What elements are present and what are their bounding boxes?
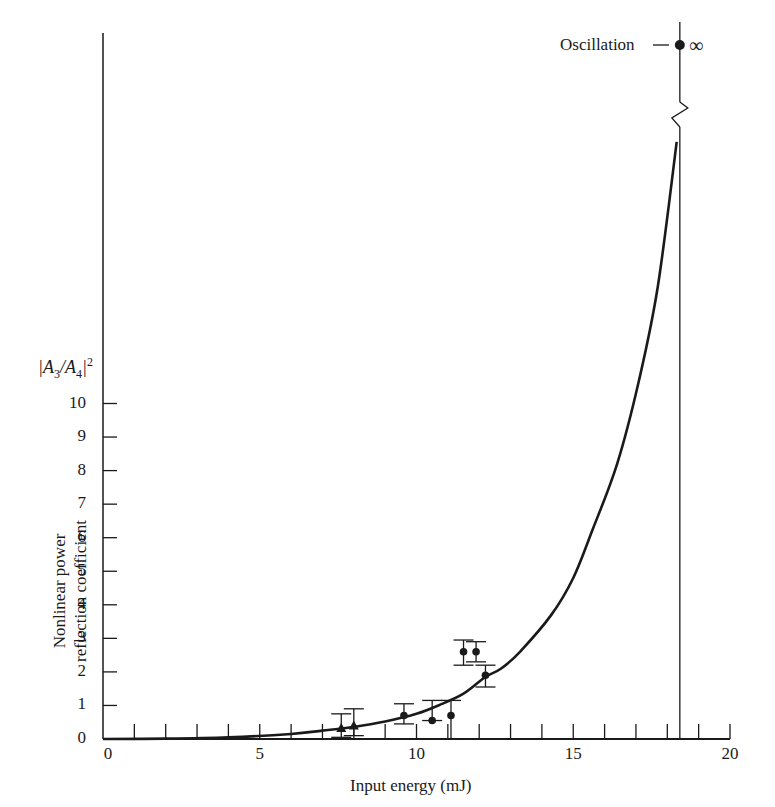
y-tick-label: 0 [62,728,86,748]
x-tick-label: 20 [710,744,750,764]
data-point-circle [460,648,468,656]
infinity-symbol: ∞ [689,34,703,57]
x-tick-label: 0 [88,744,128,764]
data-point-circle [447,712,455,720]
y-axis-quantity: |A3/A4|2 [38,355,93,382]
y-tick-label: 9 [62,426,86,446]
y-axis-title-line2: reflection coefficient [70,476,91,706]
data-point-circle [482,671,490,679]
chart-canvas [0,0,775,807]
y-axis-title: Nonlinear power reflection coefficient [49,476,91,706]
x-tick-label: 15 [553,744,593,764]
data-point-circle [400,712,408,720]
oscillation-label: Oscillation [560,35,635,55]
x-tick-label: 5 [240,744,280,764]
theory-curve [103,142,677,739]
data-point-circle [472,648,480,656]
y-axis-title-line1: Nonlinear power [49,476,70,706]
data-point-circle [428,717,436,725]
x-tick-label: 10 [397,744,437,764]
axis-break-zigzag [672,102,688,127]
oscillation-point [675,40,685,50]
data-point-triangle [349,721,359,730]
y-tick-label: 10 [62,393,86,413]
x-axis-title: Input energy (mJ) [350,776,472,796]
